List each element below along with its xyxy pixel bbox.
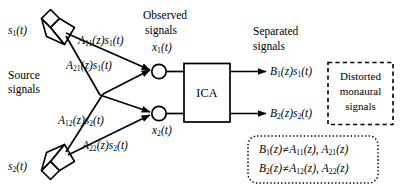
inequality-note-line2: B2(z)≠A12(z), A22(z) xyxy=(259,162,349,176)
mixing-label-a21: A21(z)s1(t) xyxy=(66,59,112,73)
mixing-label-a12: A12(z)s2(t) xyxy=(58,114,104,128)
observed-signals-group-label-line2: signals xyxy=(145,24,177,36)
source-signals-group-label-line2: signals xyxy=(8,83,40,95)
mixing-label-a22: A22(z)s2(t) xyxy=(82,139,128,153)
observed-label-x2: x2(t) xyxy=(152,124,172,138)
source-label-s2: s2(t) xyxy=(8,160,27,174)
summing-junction-x1 xyxy=(152,64,166,78)
separated-label-b1: B1(z)s1(t) xyxy=(270,65,312,79)
summing-junction-x2 xyxy=(152,106,166,120)
distorted-note-line3: signals xyxy=(328,100,393,113)
source-speaker-s1 xyxy=(42,10,75,45)
inequality-note-line1: B1(z)≠A11(z), A21(z) xyxy=(259,143,348,157)
observed-signals-group-label-line1: Observed xyxy=(143,9,187,21)
distorted-note-line2: monaural xyxy=(328,85,393,98)
observed-label-x1: x1(t) xyxy=(152,41,172,55)
mixing-label-a11: A11(z)s1(t) xyxy=(78,34,124,48)
separated-signals-group-label-line2: signals xyxy=(253,40,285,52)
distorted-note-line1: Distorted xyxy=(328,70,393,83)
separated-signals-group-label-line1: Separated xyxy=(253,25,298,37)
source-speaker-s2 xyxy=(42,145,75,180)
source-label-s1: s1(t) xyxy=(8,24,27,38)
source-signals-group-label-line1: Source xyxy=(8,69,40,81)
path-arrow-a21-b xyxy=(100,95,150,112)
path-arrow-a12-b xyxy=(103,70,150,94)
separated-label-b2: B2(z)s2(t) xyxy=(270,107,312,121)
ica-block-diagram: s1(t) s2(t) Source signals A11(z)s1(t) A… xyxy=(0,0,411,189)
ica-block-label: ICA xyxy=(184,86,230,101)
